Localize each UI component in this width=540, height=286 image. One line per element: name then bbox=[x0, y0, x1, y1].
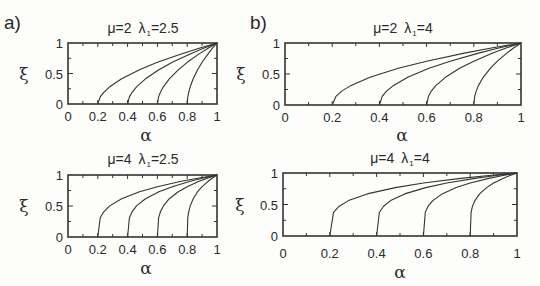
x-tick-label: 0.4 bbox=[368, 246, 386, 261]
x-tick-label: 0.6 bbox=[148, 109, 166, 124]
x-axis-label: α bbox=[396, 125, 408, 145]
y-tick-label: 1 bbox=[271, 166, 278, 181]
figure-canvas: 00.20.40.60.8100.51αξ 00.20.40.60.8100.5… bbox=[0, 0, 540, 286]
x-tick-label: 0.4 bbox=[119, 242, 137, 257]
x-tick-label: 0 bbox=[281, 110, 288, 125]
curve--0-0-4 bbox=[128, 175, 217, 237]
x-tick-label: 0.6 bbox=[418, 110, 436, 125]
x-axis-label: α bbox=[140, 125, 152, 145]
plot-b-top: 00.20.40.60.8100.51αξ bbox=[236, 36, 524, 145]
y-axis-label: ξ bbox=[19, 196, 28, 216]
x-tick-label: 0.8 bbox=[178, 242, 196, 257]
y-tick-label: 0.5 bbox=[260, 198, 278, 213]
x-tick-label: 0.4 bbox=[119, 109, 137, 124]
y-tick-label: 0.5 bbox=[262, 67, 280, 82]
plot-a-top: 00.20.40.60.8100.51αξ bbox=[19, 36, 220, 145]
x-tick-label: 0.6 bbox=[414, 246, 432, 261]
x-tick-label: 1 bbox=[513, 246, 520, 261]
x-tick-label: 0 bbox=[64, 242, 71, 257]
x-tick-label: 1 bbox=[517, 110, 524, 125]
curve--0-0-4 bbox=[128, 43, 217, 104]
y-axis-label: ξ bbox=[236, 64, 245, 84]
curve--0-0-2 bbox=[98, 175, 217, 237]
x-tick-label: 0.8 bbox=[461, 246, 479, 261]
plot-frame bbox=[68, 175, 217, 237]
x-tick-label: 0 bbox=[279, 246, 286, 261]
curve--0-0-2 bbox=[332, 43, 521, 105]
x-tick-label: 0.8 bbox=[178, 109, 196, 124]
y-axis-label: ξ bbox=[235, 195, 244, 215]
plot-b-bottom: 00.20.40.60.8100.51αξ bbox=[235, 166, 520, 282]
x-axis-label: α bbox=[394, 262, 406, 282]
x-tick-label: 0.4 bbox=[370, 110, 388, 125]
x-tick-label: 1 bbox=[213, 242, 220, 257]
curve--0-0-6 bbox=[427, 43, 521, 105]
x-axis-label: α bbox=[140, 258, 152, 278]
plot-a-bottom: 00.20.40.60.8100.51αξ bbox=[19, 168, 220, 278]
curve--0-0-8 bbox=[470, 173, 517, 236]
x-tick-label: 0.2 bbox=[89, 109, 107, 124]
y-tick-label: 0.5 bbox=[45, 67, 63, 82]
y-tick-label: 0.5 bbox=[45, 199, 63, 214]
curve--0-0-2 bbox=[330, 173, 517, 236]
x-tick-label: 0.2 bbox=[323, 110, 341, 125]
y-tick-label: 1 bbox=[56, 36, 63, 51]
x-tick-label: 0.2 bbox=[89, 242, 107, 257]
x-tick-label: 0.2 bbox=[321, 246, 339, 261]
x-tick-label: 0 bbox=[64, 109, 71, 124]
y-axis-label: ξ bbox=[19, 64, 28, 84]
y-tick-label: 0 bbox=[56, 97, 63, 112]
y-tick-label: 0 bbox=[56, 230, 63, 245]
y-tick-label: 1 bbox=[56, 168, 63, 183]
plot-frame bbox=[283, 173, 517, 236]
x-tick-label: 0.6 bbox=[148, 242, 166, 257]
curve--0-0-2 bbox=[98, 43, 217, 104]
y-tick-label: 1 bbox=[273, 36, 280, 51]
x-tick-label: 0.8 bbox=[465, 110, 483, 125]
y-tick-label: 0 bbox=[273, 98, 280, 113]
y-tick-label: 0 bbox=[271, 229, 278, 244]
x-tick-label: 1 bbox=[213, 109, 220, 124]
